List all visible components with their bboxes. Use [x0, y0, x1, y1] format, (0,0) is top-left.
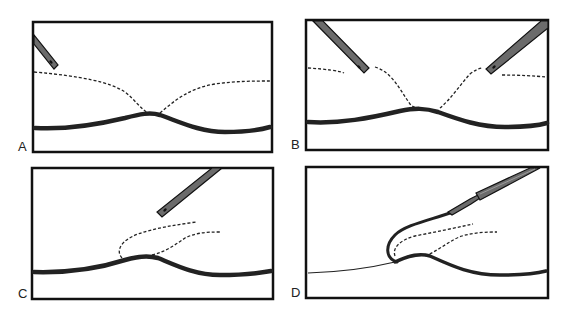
panel-label-b: B — [291, 137, 300, 152]
panel-b — [306, 20, 548, 150]
figure: A B C D — [0, 0, 569, 316]
panel-label-d: D — [291, 285, 300, 300]
panel-c — [32, 168, 273, 299]
panel-d — [306, 167, 548, 298]
panel-a — [33, 22, 272, 152]
panel-label-c: C — [18, 286, 27, 301]
panel-label-a: A — [18, 139, 27, 154]
